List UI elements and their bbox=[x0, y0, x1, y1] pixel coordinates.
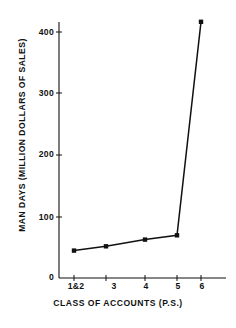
plot-area bbox=[0, 0, 236, 328]
chart-container: MAN DAYS (MILLION DOLLARS OF SALES) 400 … bbox=[0, 0, 236, 328]
x-axis-title: CLASS OF ACCOUNTS (P.S.) bbox=[0, 298, 236, 308]
data-point-3 bbox=[104, 244, 108, 248]
x-tick-label-3: 3 bbox=[111, 281, 116, 291]
data-point-markers bbox=[72, 20, 203, 253]
x-tick-label-1and2: 1&2 bbox=[68, 281, 85, 291]
data-series-line bbox=[74, 22, 201, 251]
data-point-1&2 bbox=[72, 248, 76, 252]
x-tick-label-4: 4 bbox=[143, 281, 148, 291]
x-tick-label-6: 6 bbox=[199, 281, 204, 291]
data-point-4 bbox=[143, 237, 147, 241]
data-point-6 bbox=[199, 20, 203, 24]
x-tick-label-5: 5 bbox=[175, 281, 180, 291]
data-point-5 bbox=[175, 233, 179, 237]
